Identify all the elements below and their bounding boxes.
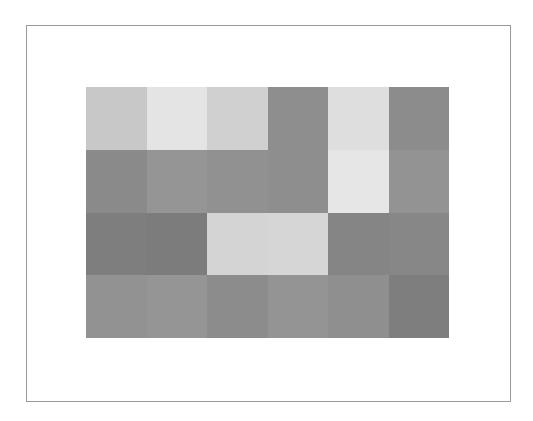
heatmap-cell (268, 275, 329, 338)
heatmap-cell (389, 213, 450, 276)
heatmap-cell (328, 150, 389, 213)
heatmap-cell (328, 275, 389, 338)
heatmap-grid (86, 87, 449, 338)
heatmap-cell (328, 213, 389, 276)
heatmap-cell (207, 275, 268, 338)
heatmap-cell (207, 150, 268, 213)
heatmap-cell (389, 150, 450, 213)
heatmap-cell (328, 87, 389, 150)
heatmap-cell (86, 213, 147, 276)
heatmap-cell (389, 87, 450, 150)
heatmap-cell (86, 275, 147, 338)
heatmap-cell (147, 150, 208, 213)
heatmap-cell (268, 150, 329, 213)
heatmap-cell (207, 213, 268, 276)
heatmap-cell (147, 213, 208, 276)
heatmap-cell (268, 87, 329, 150)
heatmap-cell (86, 87, 147, 150)
heatmap-cell (147, 87, 208, 150)
heatmap-cell (268, 213, 329, 276)
heatmap-cell (86, 150, 147, 213)
heatmap-cell (147, 275, 208, 338)
heatmap-cell (207, 87, 268, 150)
heatmap-cell (389, 275, 450, 338)
